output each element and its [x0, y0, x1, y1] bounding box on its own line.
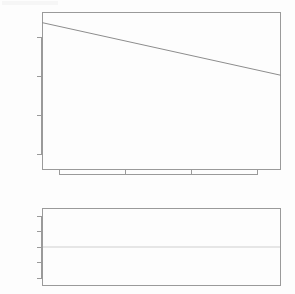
regression-line	[42, 23, 281, 76]
chart-page	[0, 0, 295, 294]
residual-overlay	[0, 200, 295, 294]
scatter-panel	[0, 0, 295, 200]
scatter-overlay	[0, 0, 295, 200]
residual-panel	[0, 200, 295, 294]
